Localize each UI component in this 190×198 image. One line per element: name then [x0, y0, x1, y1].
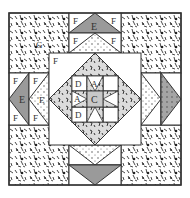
flying-geese-right [141, 73, 181, 125]
label-d: D [75, 79, 82, 89]
label-a: A [91, 79, 98, 89]
flying-geese-left: F F E F F E [9, 73, 49, 125]
label-c: C [91, 94, 98, 105]
flying-geese-top: F F E F F [69, 13, 121, 53]
label-d: D [75, 110, 82, 120]
flying-geese-bottom [69, 145, 121, 185]
label-f: F [33, 113, 38, 123]
label-f: F [73, 36, 78, 46]
label-e: E [19, 94, 25, 105]
label-f: F [73, 16, 78, 26]
label-f: F [13, 113, 18, 123]
label-f: F [53, 56, 58, 66]
quilt-block: G F F E F F F F E F F E [0, 0, 190, 198]
label-f: F [111, 36, 116, 46]
label-f: F [33, 76, 38, 86]
label-f: F [13, 76, 18, 86]
label-e: E [91, 21, 97, 32]
label-a: A [74, 94, 81, 104]
center-block: F C D D A A [49, 53, 141, 145]
label-e: E [39, 95, 45, 105]
label-g: G [36, 40, 43, 50]
label-f: F [111, 16, 116, 26]
